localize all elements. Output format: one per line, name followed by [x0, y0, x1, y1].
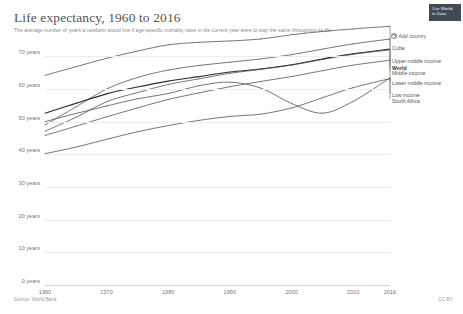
series-point — [199, 76, 200, 77]
logo-line-2: in Data — [432, 11, 459, 16]
series-point — [199, 85, 200, 86]
series-point — [137, 77, 138, 78]
gridline — [45, 220, 390, 221]
series-point — [291, 76, 292, 77]
series-point — [137, 51, 138, 52]
series-point — [168, 44, 169, 45]
series-point — [199, 65, 200, 66]
source-note: Source: World Bank — [14, 297, 57, 302]
series-point — [322, 70, 323, 71]
series-point — [199, 78, 200, 79]
series-point — [75, 107, 76, 108]
y-axis-tick-label: 60 years — [0, 82, 40, 88]
series-point — [322, 59, 323, 60]
x-axis-tick-label: 1980 — [162, 289, 174, 295]
series-point — [168, 99, 169, 100]
series-point — [45, 131, 46, 132]
series-point — [168, 84, 169, 85]
series-point — [260, 114, 261, 115]
series-point — [137, 98, 138, 99]
series-point — [229, 41, 230, 42]
gridline — [45, 252, 390, 253]
series-point — [106, 116, 107, 117]
y-axis-tick-label: 0 years — [0, 278, 40, 284]
series-point — [291, 108, 292, 109]
series-point — [75, 117, 76, 118]
our-world-in-data-logo[interactable]: Our World in Data — [429, 4, 461, 21]
series-point — [75, 103, 76, 104]
x-axis-tick-label: 2000 — [285, 289, 297, 295]
series-point — [75, 66, 76, 67]
add-country-label: Add country — [399, 33, 427, 39]
series-point — [229, 86, 230, 87]
series-point — [291, 103, 292, 104]
series-point — [168, 70, 169, 71]
series-point — [229, 72, 230, 73]
y-axis-tick-label: 40 years — [0, 147, 40, 153]
series-point — [106, 58, 107, 59]
y-axis-tick-label: 10 years — [0, 245, 40, 251]
x-axis-tick-label: 1990 — [224, 289, 236, 295]
y-axis-tick-label: 20 years — [0, 213, 40, 219]
series-point — [291, 34, 292, 35]
y-axis-tick-label: 70 years — [0, 49, 40, 55]
series-point — [45, 135, 46, 136]
series-point — [106, 139, 107, 140]
page-title: Life expectancy, 1960 to 2016 — [14, 10, 181, 26]
license-note[interactable]: CC BY — [438, 297, 453, 302]
gridline — [45, 154, 390, 155]
series-point — [260, 69, 261, 70]
legend-connector-lines — [330, 30, 400, 120]
series-point — [168, 81, 169, 82]
gridline — [45, 285, 390, 286]
x-axis-tick-label: 1960 — [39, 289, 51, 295]
series-point — [229, 116, 230, 117]
gridline — [45, 122, 390, 123]
series-point — [260, 39, 261, 40]
series-point — [137, 92, 138, 93]
series-point — [322, 97, 323, 98]
series-point — [137, 108, 138, 109]
series-point — [75, 147, 76, 148]
series-point — [137, 131, 138, 132]
series-point — [75, 126, 76, 127]
series-point — [45, 113, 46, 114]
series-point — [106, 93, 107, 94]
series-point — [291, 65, 292, 66]
series-point — [199, 42, 200, 43]
series-point — [322, 113, 323, 114]
series-point — [106, 106, 107, 107]
y-axis-tick-label: 30 years — [0, 180, 40, 186]
series-point — [229, 73, 230, 74]
series-point — [168, 93, 169, 94]
series-point — [106, 101, 107, 102]
chart-container: Life expectancy, 1960 to 2016 The averag… — [0, 0, 463, 314]
series-point — [137, 87, 138, 88]
series-point — [322, 31, 323, 32]
series-point — [229, 82, 230, 83]
y-axis-tick-label: 50 years — [0, 115, 40, 121]
series-point — [260, 81, 261, 82]
series-point — [291, 54, 292, 55]
series-point — [75, 113, 76, 114]
x-axis-tick-label: 1970 — [100, 289, 112, 295]
x-axis-tick-label: 2010 — [347, 289, 359, 295]
x-axis-tick-label: 2016 — [384, 289, 396, 295]
series-point — [229, 62, 230, 63]
series-point — [199, 92, 200, 93]
chart-subtitle: The average number of years a newborn wo… — [14, 27, 332, 33]
series-point — [45, 75, 46, 76]
series-point — [322, 49, 323, 50]
series-point — [45, 124, 46, 125]
series-point — [168, 125, 169, 126]
series-point — [260, 59, 261, 60]
gridline — [45, 187, 390, 188]
